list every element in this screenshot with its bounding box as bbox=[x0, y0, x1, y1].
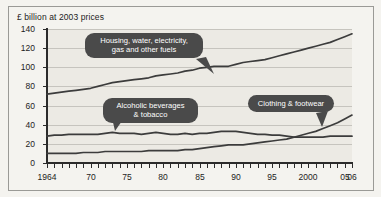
housing-callout-tail bbox=[196, 57, 214, 74]
clothing-callout-tail bbox=[316, 111, 328, 127]
clothing-callout: Clothing & footwear bbox=[248, 95, 334, 112]
housing-callout: Housing, water, electricity, gas and oth… bbox=[85, 33, 203, 58]
chart-figure: £ billion at 2003 prices 020406080100120… bbox=[0, 0, 381, 197]
alcohol-callout: Alcoholic beverages & tobacco bbox=[103, 98, 198, 123]
